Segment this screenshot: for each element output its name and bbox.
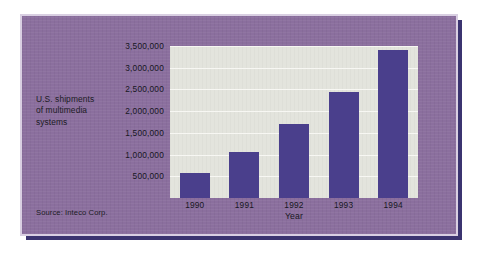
- y-axis-tick-label: 3,500,000: [125, 41, 164, 51]
- x-axis-tick-label: 1992: [284, 200, 303, 210]
- chart-card: U.S. shipments of multimedia systems Sou…: [22, 16, 456, 234]
- x-axis-tick-label: 1993: [334, 200, 353, 210]
- gridline: [170, 46, 418, 47]
- x-axis-tick-label: 1991: [235, 200, 254, 210]
- x-axis-title: Year: [285, 211, 303, 221]
- y-axis-tick-label: 2,500,000: [125, 84, 164, 94]
- caption-line-3: systems: [36, 117, 132, 128]
- bar: [180, 173, 210, 198]
- bar: [279, 124, 309, 198]
- x-axis-tick-label: 1994: [384, 200, 403, 210]
- chart-figure: U.S. shipments of multimedia systems Sou…: [0, 0, 482, 257]
- caption-line-1: U.S. shipments: [36, 94, 132, 105]
- bar: [329, 92, 359, 198]
- y-axis-tick-label: 1,000,000: [125, 150, 164, 160]
- plot-area: 500,0001,000,0001,500,0002,000,0002,500,…: [170, 46, 418, 198]
- plot-wrapper: 500,0001,000,0001,500,0002,000,0002,500,…: [170, 46, 418, 198]
- y-axis-tick-label: 2,000,000: [125, 106, 164, 116]
- bar: [378, 50, 408, 198]
- y-axis-tick-label: 500,000: [133, 171, 164, 181]
- bar: [229, 152, 259, 198]
- y-axis-tick-label: 1,500,000: [125, 128, 164, 138]
- chart-caption: U.S. shipments of multimedia systems: [36, 94, 132, 128]
- caption-line-2: of multimedia: [36, 105, 132, 116]
- x-axis-tick-label: 1990: [185, 200, 204, 210]
- source-note: Source: Inteco Corp.: [36, 208, 108, 217]
- y-axis-tick-label: 3,000,000: [125, 63, 164, 73]
